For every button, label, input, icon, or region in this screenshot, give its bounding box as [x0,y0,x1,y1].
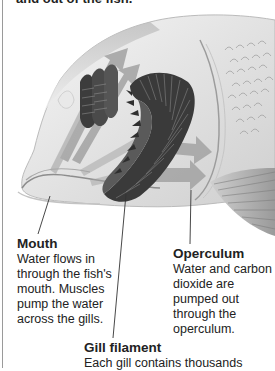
gill-filament-title: Gill filament [84,340,274,356]
operculum-title: Operculum [173,246,273,262]
mouth-leader-line [38,196,50,234]
gill-filament-label: Gill filament Each gill contains thousan… [84,340,274,371]
operculum-label: Operculum Water and carbon dioxide are p… [173,246,273,337]
mouth-description: Water flows in through the fish's mouth.… [17,252,127,327]
operculum-description: Water and carbon dioxide are pumped out … [173,262,273,337]
gill-filament-description: Each gill contains thousands [84,356,274,371]
mouth-label: Mouth Water flows in through the fish's … [17,236,127,327]
mouth-title: Mouth [17,236,127,252]
